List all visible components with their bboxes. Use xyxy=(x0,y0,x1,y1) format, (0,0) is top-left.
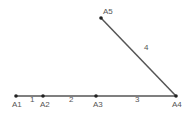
point-A1 xyxy=(14,94,18,98)
segment-label: 4 xyxy=(144,43,149,52)
point-A4 xyxy=(174,94,178,98)
point-A5 xyxy=(99,16,103,20)
geometry-diagram: 1234A1A2A3A4A5 xyxy=(0,0,192,116)
point-A2 xyxy=(41,94,45,98)
segment-label: 2 xyxy=(69,95,74,104)
point-label: A4 xyxy=(172,100,182,109)
point-A3 xyxy=(94,94,98,98)
point-label: A1 xyxy=(12,100,22,109)
point-label: A3 xyxy=(93,100,103,109)
segment-label: 1 xyxy=(30,95,35,104)
point-label: A5 xyxy=(103,7,113,16)
segment-label: 3 xyxy=(135,95,140,104)
point-label: A2 xyxy=(40,100,50,109)
diagram-svg: 1234A1A2A3A4A5 xyxy=(0,0,192,116)
segment-4 xyxy=(101,18,176,96)
